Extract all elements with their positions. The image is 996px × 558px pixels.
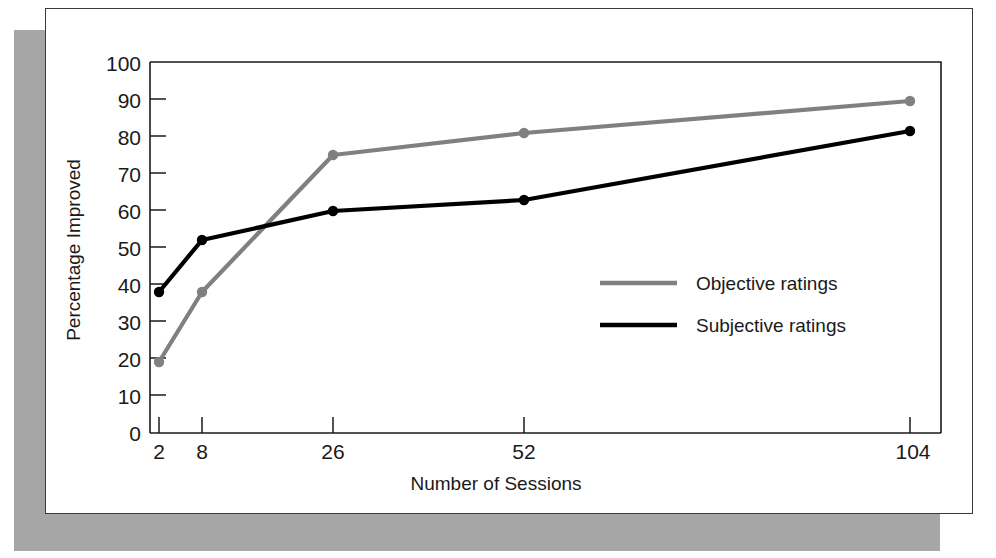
data-point [154, 357, 164, 367]
series-line-subjective [159, 131, 910, 292]
x-tick-label: 2 [153, 440, 165, 463]
x-axis-tick-labels: 2 8 26 52 104 [153, 440, 931, 463]
y-tick-label: 0 [129, 422, 141, 445]
data-point [328, 206, 338, 216]
plot-frame [150, 62, 941, 433]
x-tick-label: 52 [512, 440, 535, 463]
y-tick-label: 90 [118, 89, 141, 112]
x-tick-label: 104 [895, 440, 930, 463]
y-tick-label: 40 [118, 274, 141, 297]
y-tick-label: 50 [118, 237, 141, 260]
x-tick-label: 8 [196, 440, 208, 463]
data-point [519, 195, 529, 205]
y-tick-label: 10 [118, 385, 141, 408]
figure-root: 100 90 80 70 60 50 40 30 20 10 0 [0, 0, 996, 558]
y-tick-label: 60 [118, 200, 141, 223]
legend-label-subjective: Subjective ratings [696, 315, 846, 336]
chart-legend: Objective ratings Subjective ratings [600, 273, 846, 336]
data-point [328, 150, 338, 160]
legend-label-objective: Objective ratings [696, 273, 838, 294]
data-point [197, 287, 207, 297]
y-axis-tick-labels: 100 90 80 70 60 50 40 30 20 10 0 [106, 52, 141, 445]
data-point [197, 235, 207, 245]
x-axis-title: Number of Sessions [410, 473, 581, 494]
data-point [519, 128, 529, 138]
x-axis-ticks [159, 417, 910, 433]
y-tick-label: 80 [118, 126, 141, 149]
y-tick-label: 100 [106, 52, 141, 75]
data-point [905, 126, 915, 136]
x-tick-label: 26 [321, 440, 344, 463]
series-subjective-ratings [154, 126, 915, 297]
y-tick-label: 20 [118, 348, 141, 371]
y-axis-title: Percentage Improved [63, 159, 84, 341]
y-tick-label: 30 [118, 311, 141, 334]
data-point [905, 96, 915, 106]
y-tick-label: 70 [118, 163, 141, 186]
data-point [154, 287, 164, 297]
chart-canvas: 100 90 80 70 60 50 40 30 20 10 0 [0, 0, 996, 558]
